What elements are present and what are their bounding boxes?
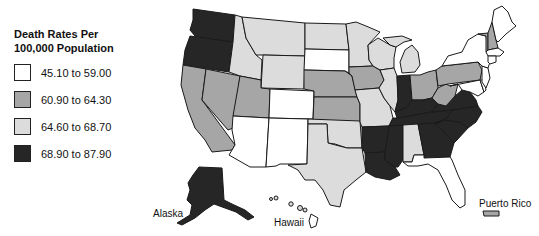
state-KS xyxy=(313,97,360,122)
state-SD xyxy=(304,49,349,73)
state-ND xyxy=(305,23,349,50)
state-AR xyxy=(362,126,389,153)
state-PR xyxy=(483,211,499,216)
label-alaska: Alaska xyxy=(153,208,183,219)
state-CO xyxy=(269,89,314,119)
state-WY xyxy=(261,55,305,89)
state-ME xyxy=(492,6,516,42)
state-NM xyxy=(266,118,308,167)
state-AK xyxy=(177,167,254,225)
state-NY xyxy=(442,34,490,68)
state-NJ xyxy=(482,66,490,88)
state-AZ xyxy=(229,116,269,167)
label-puerto-rico: Puerto Rico xyxy=(479,198,532,209)
state-CT xyxy=(488,56,496,64)
us-choropleth-map: Alaska Hawaii Puerto Rico xyxy=(0,0,539,236)
label-hawaii: Hawaii xyxy=(274,217,304,228)
state-FL xyxy=(403,155,465,208)
